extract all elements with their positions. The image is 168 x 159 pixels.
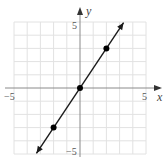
y-max-label: 5: [72, 20, 77, 31]
x-axis-label: x: [156, 90, 163, 104]
coordinate-plane: −5 5 x 5 −5 y: [0, 0, 168, 159]
line-arrow-up-icon: [117, 23, 123, 30]
y-min-label: −5: [66, 146, 77, 157]
x-max-label: 5: [142, 91, 147, 102]
x-min-label: −5: [4, 91, 15, 102]
line-arrow-down-icon: [36, 146, 42, 153]
y-axis-arrow-icon: [77, 7, 83, 15]
y-axis-label: y: [85, 4, 92, 18]
data-point: [103, 45, 109, 51]
data-point: [77, 85, 83, 91]
data-point: [51, 125, 57, 131]
